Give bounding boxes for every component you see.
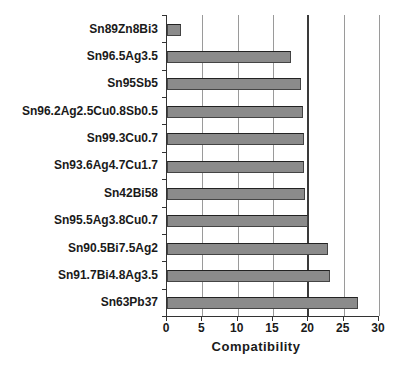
category-label-Sn63Pb37: Sn63Pb37	[0, 289, 158, 316]
gridline-25	[344, 15, 345, 316]
category-label-Sn90.5Bi7.5Ag2: Sn90.5Bi7.5Ag2	[0, 234, 158, 261]
x-tick-label-0: 0	[151, 321, 181, 335]
y-axis-tick	[162, 42, 166, 43]
bar-Sn90.5Bi7.5Ag2	[167, 243, 328, 255]
category-label-Sn95.5Ag3.8Cu0.7: Sn95.5Ag3.8Cu0.7	[0, 207, 158, 234]
x-tick-label-10: 10	[222, 321, 252, 335]
x-axis-title: Compatibility	[150, 339, 362, 354]
category-label-Sn96.5Ag3.5: Sn96.5Ag3.5	[0, 42, 158, 69]
bar-Sn63Pb37	[167, 297, 358, 309]
bar-Sn96.2Ag2.5Cu0.8Sb0.5	[167, 106, 303, 118]
bar-Sn93.6Ag4.7Cu1.7	[167, 161, 304, 173]
y-axis-tick	[162, 289, 166, 290]
x-tick-label-30: 30	[363, 321, 393, 335]
y-axis-tick	[162, 124, 166, 125]
category-label-Sn91.7Bi4.8Ag3.5: Sn91.7Bi4.8Ag3.5	[0, 261, 158, 288]
category-label-Sn89Zn8Bi3: Sn89Zn8Bi3	[0, 15, 158, 42]
y-axis-tick	[162, 261, 166, 262]
category-label-Sn96.2Ag2.5Cu0.8Sb0.5: Sn96.2Ag2.5Cu0.8Sb0.5	[0, 97, 158, 124]
x-tick-label-20: 20	[292, 321, 322, 335]
bar-Sn95.5Ag3.8Cu0.7	[167, 215, 308, 227]
y-axis-tick	[162, 234, 166, 235]
bar-Sn95Sb5	[167, 78, 301, 90]
x-tick-label-25: 25	[328, 321, 358, 335]
y-axis-tick	[162, 15, 166, 16]
bar-Sn96.5Ag3.5	[167, 51, 291, 63]
category-label-Sn99.3Cu0.7: Sn99.3Cu0.7	[0, 124, 158, 151]
y-axis-tick	[162, 179, 166, 180]
bar-Sn99.3Cu0.7	[167, 133, 304, 145]
bar-Sn42Bi58	[167, 188, 305, 200]
category-label-Sn95Sb5: Sn95Sb5	[0, 70, 158, 97]
bar-Sn91.7Bi4.8Ag3.5	[167, 270, 330, 282]
gridline-30	[379, 15, 380, 316]
compatibility-bar-chart: Sn89Zn8Bi3Sn96.5Ag3.5Sn95Sb5Sn96.2Ag2.5C…	[0, 0, 407, 372]
y-axis-tick	[162, 207, 166, 208]
x-tick-label-5: 5	[186, 321, 216, 335]
category-label-Sn93.6Ag4.7Cu1.7: Sn93.6Ag4.7Cu1.7	[0, 152, 158, 179]
x-tick-label-15: 15	[257, 321, 287, 335]
y-axis-tick	[162, 152, 166, 153]
category-label-Sn42Bi58: Sn42Bi58	[0, 179, 158, 206]
bar-Sn89Zn8Bi3	[167, 24, 181, 36]
y-axis-tick	[162, 70, 166, 71]
y-axis-tick	[162, 97, 166, 98]
plot-area	[166, 15, 379, 317]
